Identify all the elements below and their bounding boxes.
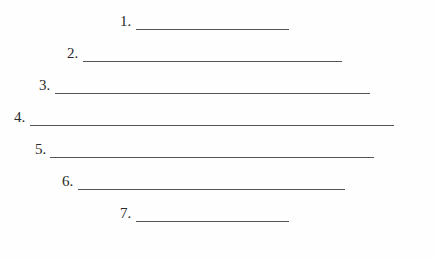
fill-in-blank-line[interactable] <box>55 93 370 94</box>
fill-in-blank-line[interactable] <box>136 221 289 222</box>
blank-row-7: 7. <box>0 205 436 225</box>
worksheet-page: 1. 2. 3. 4. 5. 6. 7. <box>0 0 436 259</box>
fill-in-blank-line[interactable] <box>50 157 374 158</box>
item-number: 1. <box>120 14 131 29</box>
blank-row-2: 2. <box>0 45 436 65</box>
fill-in-blank-line[interactable] <box>136 29 289 30</box>
blank-row-1: 1. <box>0 13 436 33</box>
item-number: 4. <box>14 110 25 125</box>
blank-row-6: 6. <box>0 173 436 193</box>
item-number: 3. <box>39 78 50 93</box>
item-number: 7. <box>120 206 131 221</box>
blank-row-4: 4. <box>0 109 436 129</box>
item-number: 5. <box>35 142 46 157</box>
fill-in-blank-line[interactable] <box>78 189 345 190</box>
item-number: 2. <box>67 46 78 61</box>
fill-in-blank-line[interactable] <box>83 61 342 62</box>
fill-in-blank-line[interactable] <box>30 125 394 126</box>
blank-row-5: 5. <box>0 141 436 161</box>
blank-row-3: 3. <box>0 77 436 97</box>
item-number: 6. <box>62 174 73 189</box>
